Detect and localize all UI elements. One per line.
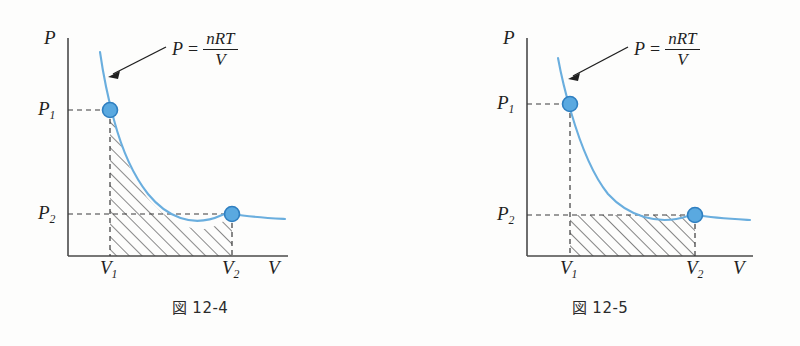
equation-annotation: P = nRT V: [634, 30, 700, 69]
figure-caption-12-5: 図 12-5: [400, 296, 800, 317]
equation-lhs: P: [172, 40, 183, 58]
tick-label-P2-base: P: [497, 203, 509, 224]
equation-equals: =: [188, 40, 198, 58]
tick-label-P1-sub: 1: [509, 103, 515, 116]
tick-label-V2: V2: [222, 258, 240, 277]
x-axis-label: V: [268, 258, 280, 277]
equation-fraction: nRT V: [203, 30, 237, 69]
plot-area-12-5: [400, 0, 800, 300]
equation-equals: =: [650, 40, 660, 58]
equation-fraction: nRT V: [665, 30, 699, 69]
annotation-arrow: [108, 47, 166, 79]
figure-caption-12-4: 図 12-4: [0, 296, 400, 317]
equation-annotation: P = nRT V: [172, 30, 238, 69]
tick-label-P1-base: P: [497, 92, 509, 113]
point-marker-P1-V1[interactable]: [563, 97, 578, 112]
shaded-rectangle-work: [570, 215, 695, 256]
tick-label-P1: P1: [497, 93, 515, 112]
tick-label-P2-sub: 2: [50, 213, 56, 226]
tick-label-V1-sub: 1: [572, 268, 578, 281]
tick-label-P1-sub: 1: [50, 109, 56, 122]
tick-label-V1-sub: 1: [112, 268, 118, 281]
annotation-arrow: [568, 47, 628, 81]
tick-label-P2-base: P: [38, 202, 50, 223]
tick-label-P1: P1: [38, 99, 56, 118]
point-marker-P1-V1[interactable]: [103, 103, 118, 118]
point-marker-P2-V2[interactable]: [688, 208, 703, 223]
equation-denominator: V: [674, 50, 690, 69]
x-axis-label: V: [733, 258, 745, 277]
y-axis-label: P: [503, 28, 515, 47]
equation-numerator: nRT: [665, 30, 699, 49]
hatch-fill: [110, 110, 232, 256]
tick-label-V1: V1: [560, 258, 578, 277]
point-marker-P2-V2[interactable]: [225, 207, 240, 222]
curve-pv: [558, 58, 750, 220]
tick-label-P2: P2: [38, 203, 56, 222]
tick-label-V2-base: V: [686, 257, 698, 278]
tick-label-P2-sub: 2: [509, 214, 515, 227]
equation-numerator: nRT: [203, 30, 237, 49]
equation-denominator: V: [212, 50, 228, 69]
tick-label-V2: V2: [686, 258, 704, 277]
figure-page: P V P1 P2 V1 V2 P = nRT V 図 12-4: [0, 0, 800, 346]
tick-label-V1-base: V: [100, 257, 112, 278]
figure-12-4: P V P1 P2 V1 V2 P = nRT V 図 12-4: [0, 0, 400, 346]
figure-12-5: P V P1 P2 V1 V2 P = nRT V 図 12-5: [400, 0, 800, 346]
tick-label-P2: P2: [497, 204, 515, 223]
tick-label-V2-sub: 2: [234, 268, 240, 281]
y-axis-label: P: [44, 28, 56, 47]
tick-label-P1-base: P: [38, 98, 50, 119]
tick-label-V1-base: V: [560, 257, 572, 278]
tick-label-V2-base: V: [222, 257, 234, 278]
tick-label-V2-sub: 2: [698, 268, 704, 281]
tick-label-V1: V1: [100, 258, 118, 277]
equation-lhs: P: [634, 40, 645, 58]
